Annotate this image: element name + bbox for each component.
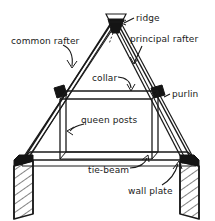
label-wall-plate: wall plate: [128, 186, 173, 196]
label-collar: collar: [92, 73, 117, 83]
common-rafter-leader-line: [63, 45, 77, 68]
queen-posts-leader-line: [67, 124, 84, 135]
collar-leader-line: [118, 77, 135, 91]
label-common-rafter: common rafter: [11, 36, 79, 46]
truss-frame-box: [60, 91, 158, 159]
label-purlin: purlin: [172, 89, 198, 99]
roof-truss-diagram: ridge common rafter principal rafter col…: [0, 0, 215, 221]
wall-plate-leader-line: [162, 161, 182, 185]
right-wall: [180, 162, 199, 219]
label-ridge: ridge: [136, 13, 160, 23]
left-wall: [14, 161, 33, 219]
label-principal-rafter: principal rafter: [130, 34, 198, 44]
label-queen-posts: queen posts: [81, 115, 137, 125]
label-tie-beam: tie-beam: [88, 165, 129, 175]
